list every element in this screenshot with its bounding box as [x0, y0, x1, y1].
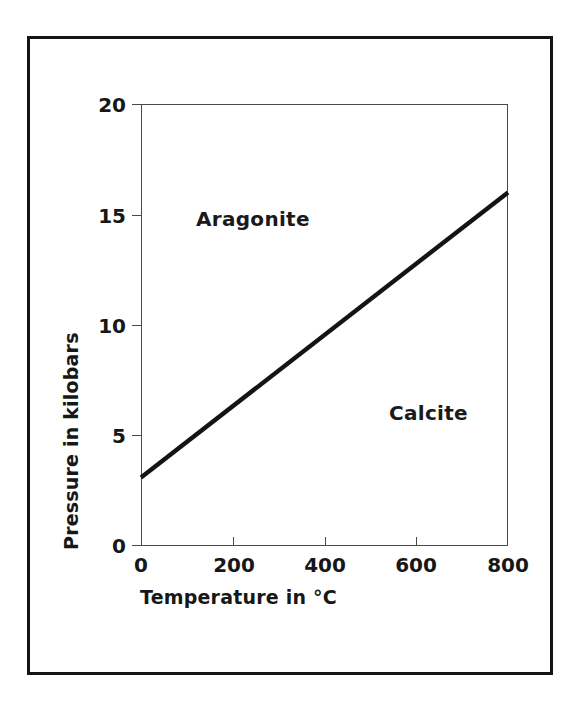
- ytick-label-10: 10: [88, 316, 126, 336]
- xtick-mark-400: [325, 537, 326, 546]
- region-label-aragonite: Aragonite: [196, 207, 310, 231]
- ytick-mark-15: [132, 215, 141, 216]
- phase-boundary-plot: [141, 104, 508, 546]
- xtick-label-400: 400: [297, 555, 353, 575]
- phase-boundary-line: [141, 192, 508, 477]
- region-label-calcite: Calcite: [389, 401, 468, 425]
- ytick-label-5: 5: [96, 426, 126, 446]
- xtick-mark-800: [507, 537, 508, 546]
- ytick-mark-20: [132, 104, 141, 105]
- phase-diagram-chart: 0 5 10 15 20 0 200 400 600 800 Temperatu…: [0, 0, 579, 719]
- xtick-label-200: 200: [206, 555, 262, 575]
- x-axis-title: Temperature in °C: [140, 586, 337, 608]
- ytick-mark-10: [132, 325, 141, 326]
- xtick-label-0: 0: [121, 555, 161, 575]
- xtick-label-600: 600: [388, 555, 444, 575]
- ytick-mark-5: [132, 435, 141, 436]
- ytick-label-15: 15: [88, 206, 126, 226]
- xtick-label-800: 800: [480, 555, 536, 575]
- xtick-mark-600: [416, 537, 417, 546]
- ytick-label-20: 20: [88, 95, 126, 115]
- y-axis-title: Pressure in kilobars: [60, 524, 320, 550]
